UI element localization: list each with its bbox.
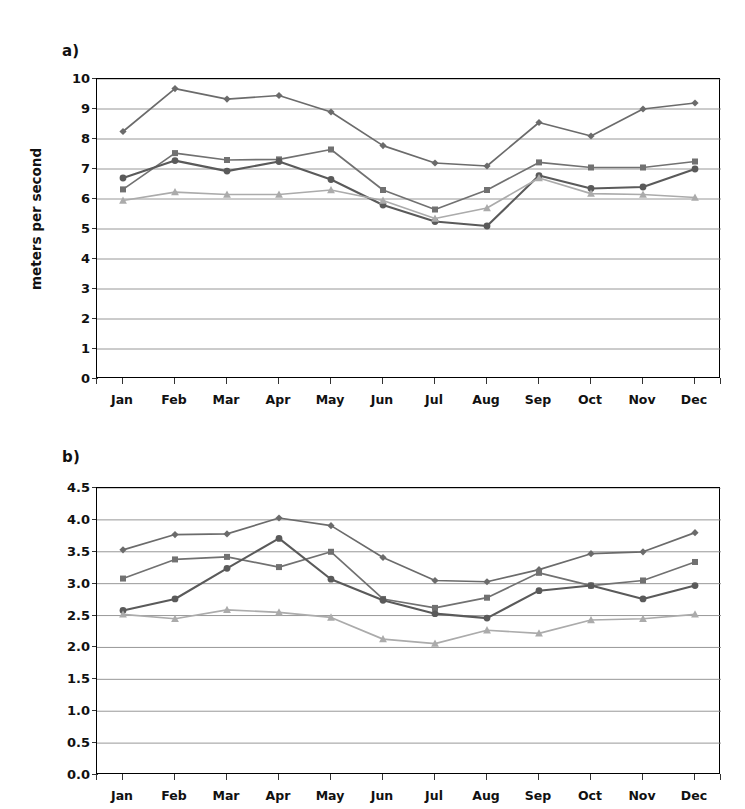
x-axis-tick-label: Jan	[111, 392, 133, 407]
data-point-marker	[432, 610, 439, 617]
data-point-marker	[276, 158, 283, 165]
panel-a-y-axis-labels: 012345678910	[34, 78, 90, 378]
data-point-marker	[275, 514, 282, 521]
data-point-marker	[483, 578, 490, 585]
data-point-marker	[484, 595, 490, 601]
y-axis-tick-label: 1	[81, 342, 90, 355]
y-axis-tick-label: 1.0	[67, 704, 90, 717]
data-point-marker	[484, 615, 491, 622]
x-axis-tick-label: Apr	[266, 392, 291, 407]
data-point-marker	[224, 157, 230, 163]
x-axis-tick-label: Jan	[111, 788, 133, 803]
x-axis-tick-label: Jun	[371, 788, 393, 803]
series-circle	[120, 535, 699, 622]
y-axis-tick-label: 0.5	[67, 736, 90, 749]
x-axis-tick-label: Aug	[472, 788, 500, 803]
data-point-marker	[691, 99, 698, 106]
x-axis-tick	[538, 378, 539, 384]
data-point-marker	[172, 157, 179, 164]
x-axis-tick	[330, 378, 331, 384]
data-point-marker	[224, 168, 231, 175]
x-axis-tick-label: Nov	[628, 392, 655, 407]
data-point-marker	[224, 554, 230, 560]
data-point-marker	[536, 570, 542, 576]
data-point-marker	[431, 577, 438, 584]
data-point-marker	[484, 187, 490, 193]
data-point-marker	[432, 605, 438, 611]
data-point-marker	[536, 159, 542, 165]
plot-svg	[97, 79, 721, 379]
data-point-marker	[171, 531, 178, 538]
series-line	[123, 538, 695, 618]
x-axis-tick	[642, 378, 643, 384]
data-point-marker	[640, 577, 646, 583]
x-axis-tick-label: Jun	[371, 392, 393, 407]
data-point-marker	[639, 548, 646, 555]
data-point-marker	[328, 576, 335, 583]
data-point-marker	[380, 597, 387, 604]
x-axis-tick-label: Apr	[266, 788, 291, 803]
data-point-marker	[640, 596, 647, 603]
x-axis-tick	[382, 774, 383, 780]
panel-b-y-axis-labels: 0.00.51.01.52.02.53.03.54.04.5	[34, 487, 90, 774]
data-point-marker	[587, 132, 594, 139]
y-axis-tick-label: 3.0	[67, 576, 90, 589]
data-point-marker	[691, 529, 698, 536]
y-axis-tick-label: 2	[81, 312, 90, 325]
data-point-marker	[328, 176, 335, 183]
chart-panel-b: b) meters per second 0.00.51.01.52.02.53…	[0, 412, 745, 809]
series-line	[123, 610, 695, 644]
data-point-marker	[692, 582, 699, 589]
x-axis-tick-label: Nov	[628, 788, 655, 803]
y-axis-tick-label: 3	[81, 282, 90, 295]
panel-b-label: b)	[62, 448, 80, 466]
series-triangle	[119, 174, 699, 222]
panel-a-label: a)	[62, 42, 79, 60]
x-axis-end-tick	[96, 774, 97, 780]
data-point-marker	[172, 556, 178, 562]
data-point-marker	[224, 565, 231, 572]
panel-a-plot-area	[96, 78, 720, 378]
x-axis-tick	[694, 774, 695, 780]
data-point-marker	[276, 535, 283, 542]
y-axis-tick-label: 3.5	[67, 544, 90, 557]
x-axis-tick	[382, 378, 383, 384]
data-point-marker	[536, 587, 543, 594]
panel-b-plot-area	[96, 487, 720, 774]
series-line	[123, 518, 695, 582]
data-point-marker	[120, 175, 127, 182]
x-axis-tick-label: Feb	[161, 392, 186, 407]
x-axis-tick-label: Mar	[212, 392, 239, 407]
y-axis-tick-label: 2.0	[67, 640, 90, 653]
data-point-marker	[432, 207, 438, 213]
y-axis-tick-label: 4	[81, 252, 90, 265]
data-point-marker	[223, 96, 230, 103]
x-axis-tick	[122, 378, 123, 384]
y-axis-tick-label: 0	[81, 372, 90, 385]
x-axis-end-tick	[720, 378, 721, 384]
data-point-marker	[588, 582, 595, 589]
y-axis-tick-label: 2.5	[67, 608, 90, 621]
x-axis-tick-label: Feb	[161, 788, 186, 803]
data-point-marker	[483, 204, 491, 211]
chart-panel-a: a) meters per second 012345678910 JanFeb…	[0, 0, 745, 410]
y-axis-tick-label: 10	[72, 72, 90, 85]
data-point-marker	[172, 150, 178, 156]
x-axis-tick-label: Sep	[525, 392, 551, 407]
x-axis-tick-label: Sep	[525, 788, 551, 803]
y-axis-tick-label: 0.0	[67, 768, 90, 781]
x-axis-tick-label: Oct	[578, 392, 602, 407]
x-axis-tick-label: May	[316, 788, 345, 803]
series-diamond	[119, 514, 698, 585]
x-axis-tick	[226, 774, 227, 780]
x-axis-tick	[434, 378, 435, 384]
x-axis-tick	[278, 774, 279, 780]
data-point-marker	[484, 223, 491, 230]
x-axis-tick-label: Aug	[472, 392, 500, 407]
x-axis-tick	[174, 774, 175, 780]
x-axis-end-tick	[720, 774, 721, 780]
data-point-marker	[692, 559, 698, 565]
series-line	[123, 150, 695, 210]
y-axis-tick-label: 4.0	[67, 512, 90, 525]
x-axis-tick	[226, 378, 227, 384]
